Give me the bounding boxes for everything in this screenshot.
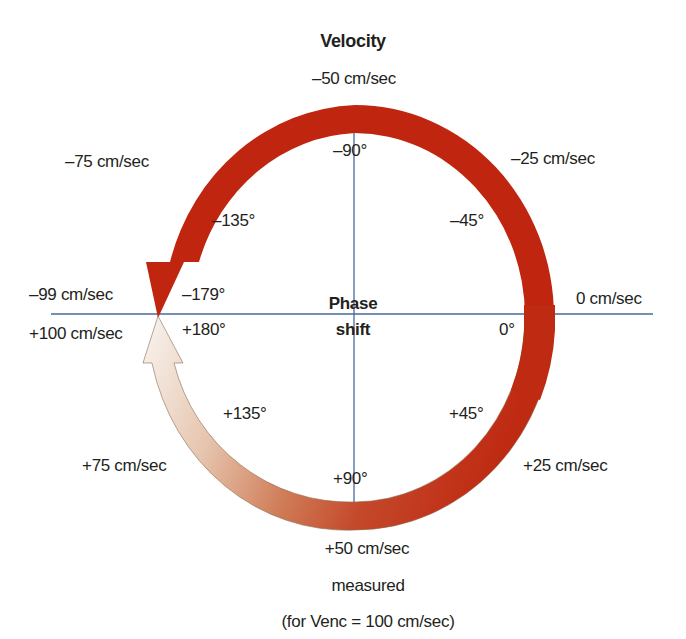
phase-label-pos45: +45°	[449, 405, 483, 422]
phase-label-neg90: –90°	[333, 142, 367, 159]
footer-measured: measured	[331, 577, 404, 594]
center-label-shift: shift	[336, 321, 370, 338]
phase-label-0: 0°	[499, 321, 515, 338]
center-label-phase: Phase	[329, 295, 378, 312]
phase-label-pos135: +135°	[223, 405, 267, 422]
velocity-label-pos50: +50 cm/sec	[325, 540, 409, 557]
footer-venc-note: (for Venc = 100 cm/sec)	[281, 613, 454, 630]
diagram-title: Velocity	[320, 32, 386, 50]
velocity-label-pos25: +25 cm/sec	[523, 457, 607, 474]
velocity-phase-diagram: Velocity –50 cm/sec –25 cm/sec –75 cm/se…	[0, 0, 686, 639]
phase-label-neg45: –45°	[450, 212, 484, 229]
phase-label-pos180: +180°	[182, 321, 226, 338]
velocity-label-pos100: +100 cm/sec	[29, 325, 123, 342]
phase-label-neg135: –135°	[212, 212, 255, 229]
velocity-label-neg25: –25 cm/sec	[511, 150, 595, 167]
phase-label-pos90: +90°	[333, 470, 367, 487]
velocity-label-0: 0 cm/sec	[576, 290, 642, 307]
velocity-label-neg75: –75 cm/sec	[65, 153, 149, 170]
phase-label-neg179: –179°	[182, 286, 225, 303]
velocity-label-neg50: –50 cm/sec	[312, 70, 396, 87]
velocity-label-pos75: +75 cm/sec	[82, 457, 166, 474]
lower-arc-arrow-icon	[143, 316, 554, 530]
velocity-label-neg99: –99 cm/sec	[29, 286, 113, 303]
